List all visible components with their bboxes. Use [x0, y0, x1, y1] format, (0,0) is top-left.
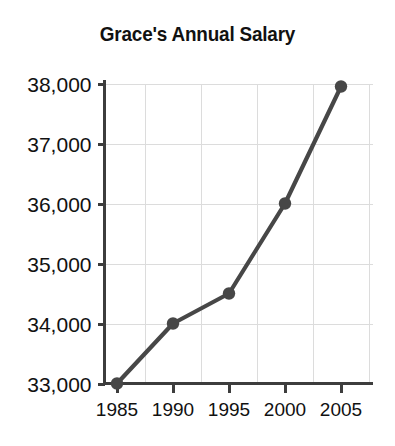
data-point-marker	[279, 197, 291, 209]
y-axis-tick-label: 34,000	[27, 313, 91, 336]
y-axis-tick-label: 38,000	[27, 73, 91, 96]
vertical-gridlines	[146, 84, 370, 384]
data-point-marker	[167, 317, 179, 329]
data-point-marker	[223, 287, 235, 299]
y-axis-tick-label: 36,000	[27, 193, 91, 216]
y-axis-labels: 33,00034,00035,00036,00037,00038,000	[27, 73, 91, 396]
chart-container: Grace's Annual Salary 33,00034,00035,000…	[0, 0, 395, 446]
x-axis-tick-label: 2005	[320, 399, 362, 420]
x-axis-tick-label: 2000	[264, 399, 306, 420]
x-axis-tick-label: 1990	[152, 399, 194, 420]
data-point-marker	[111, 377, 123, 389]
data-point-marker	[335, 80, 347, 92]
line-chart-plot: 33,00034,00035,00036,00037,00038,000 198…	[0, 0, 395, 446]
x-axis-tick-label: 1995	[208, 399, 250, 420]
y-axis-tick-label: 37,000	[27, 133, 91, 156]
y-axis-tick-label: 35,000	[27, 253, 91, 276]
x-axis-labels: 19851990199520002005	[96, 399, 362, 420]
salary-data-markers	[111, 80, 347, 389]
horizontal-gridlines	[105, 85, 373, 385]
salary-line-series	[117, 87, 341, 384]
x-axis-tick-label: 1985	[96, 399, 138, 420]
y-axis-tick-label: 33,000	[27, 373, 91, 396]
